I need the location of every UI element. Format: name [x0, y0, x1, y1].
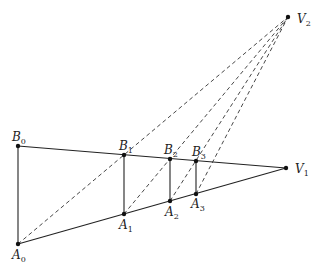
point-B0 — [16, 144, 20, 148]
label-V2: V2 — [297, 12, 311, 28]
label-B2: B2 — [163, 143, 178, 159]
point-A2 — [168, 199, 172, 203]
point-A1 — [122, 212, 126, 216]
point-A0 — [16, 242, 20, 246]
perspective-diagram: A0B0A1B1A2B2A3B3V1V2 — [0, 0, 322, 271]
point-B1 — [122, 153, 126, 157]
label-B0: B0 — [11, 130, 26, 146]
label-A3: A3 — [190, 197, 205, 213]
label-V1: V1 — [295, 162, 309, 178]
label-B1: B1 — [118, 139, 133, 155]
dashed-line-A2-V2 — [170, 17, 288, 201]
label-A2: A2 — [164, 205, 179, 221]
point-V1 — [284, 166, 288, 170]
point-B2 — [168, 157, 172, 161]
label-A0: A0 — [11, 248, 26, 264]
segment-A0-V1 — [18, 168, 286, 244]
point-B3 — [194, 159, 198, 163]
point-V2 — [286, 15, 290, 19]
label-B3: B3 — [191, 145, 206, 161]
dashed-lines — [18, 17, 288, 244]
labels: A0B0A1B1A2B2A3B3V1V2 — [11, 12, 311, 264]
solid-lines — [18, 146, 286, 244]
point-A3 — [194, 192, 198, 196]
label-A1: A1 — [118, 218, 133, 234]
segment-B0-V1 — [18, 146, 286, 168]
dashed-line-A0-V2 — [18, 17, 288, 244]
dashed-line-A1-V2 — [124, 17, 288, 214]
